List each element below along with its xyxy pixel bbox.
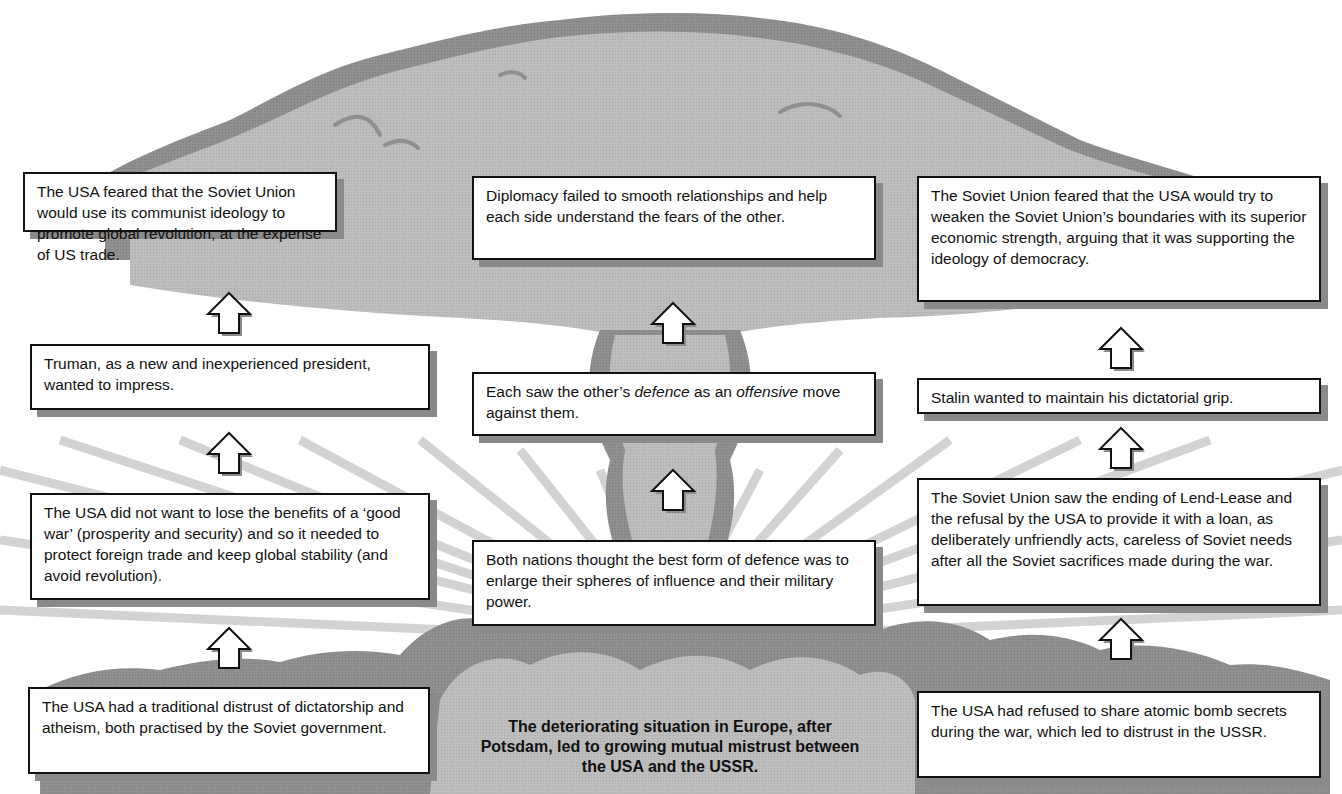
- ussr-box-stalin-grip: Stalin wanted to maintain his dictatoria…: [917, 378, 1321, 414]
- box-text: The USA had refused to share atomic bomb…: [931, 702, 1287, 740]
- both-box-spheres-of-influence: Both nations thought the best form of de…: [472, 540, 876, 626]
- box-text: Stalin wanted to maintain his dictatoria…: [931, 389, 1233, 406]
- central-statement: The deteriorating situation in Europe, a…: [470, 717, 870, 777]
- box-text: The Soviet Union saw the ending of Lend-…: [931, 489, 1292, 569]
- ussr-box-fear-of-economic-strength: The Soviet Union feared that the USA wou…: [917, 176, 1321, 302]
- up-arrow-icon: [1094, 425, 1148, 471]
- up-arrow-icon: [202, 625, 256, 671]
- box-text: The Soviet Union feared that the USA wou…: [931, 187, 1306, 267]
- box-text-italic-offensive: offensive: [736, 383, 798, 400]
- box-text: Both nations thought the best form of de…: [486, 551, 849, 610]
- box-text: The USA did not want to lose the benefit…: [44, 504, 401, 584]
- box-text-italic-defence: defence: [634, 383, 689, 400]
- up-arrow-icon: [202, 290, 256, 336]
- usa-box-traditional-distrust: The USA had a traditional distrust of di…: [28, 687, 430, 774]
- both-box-defence-as-offensive: Each saw the other’s defence as an offen…: [472, 372, 876, 436]
- ussr-box-lend-lease: The Soviet Union saw the ending of Lend-…: [917, 478, 1321, 606]
- box-text-prefix: Each saw the other’s: [486, 383, 634, 400]
- usa-box-truman: Truman, as a new and inexperienced presi…: [30, 344, 430, 410]
- box-text: Truman, as a new and inexperienced presi…: [44, 355, 371, 393]
- up-arrow-icon: [1094, 616, 1148, 662]
- box-text: Diplomacy failed to smooth relationships…: [486, 187, 827, 225]
- usa-box-fear-of-revolution: The USA feared that the Soviet Union wou…: [23, 172, 337, 232]
- up-arrow-icon: [646, 467, 700, 513]
- both-box-diplomacy-failed: Diplomacy failed to smooth relationships…: [472, 176, 876, 260]
- box-text: The USA had a traditional distrust of di…: [42, 698, 404, 736]
- ussr-box-atomic-secrets: The USA had refused to share atomic bomb…: [917, 691, 1321, 778]
- box-text-middle: as an: [690, 383, 737, 400]
- up-arrow-icon: [1094, 325, 1148, 371]
- usa-box-good-war: The USA did not want to lose the benefit…: [30, 493, 430, 600]
- up-arrow-icon: [646, 300, 700, 346]
- up-arrow-icon: [202, 430, 256, 476]
